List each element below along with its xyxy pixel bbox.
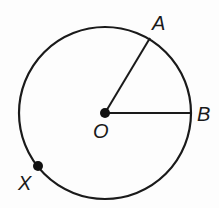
circle-diagram: A B X O: [0, 0, 219, 208]
label-b: B: [197, 103, 210, 125]
diagram-canvas: A B X O: [0, 0, 219, 208]
label-x: X: [17, 172, 32, 194]
radius-oa: [105, 38, 150, 113]
center-point-o: [100, 108, 110, 118]
label-o: O: [93, 120, 109, 142]
label-a: A: [151, 12, 165, 34]
point-x: [33, 161, 43, 171]
